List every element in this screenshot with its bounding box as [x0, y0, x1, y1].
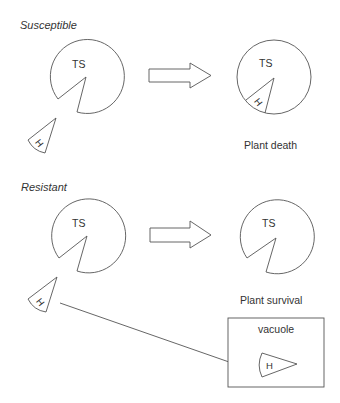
enzyme-label: TS [262, 217, 275, 229]
diagram-canvas: Susceptible TS H TS H Plant death Resist… [0, 0, 340, 403]
sequestration-arrow-icon [60, 303, 252, 370]
section-title-susceptible: Susceptible [20, 19, 77, 31]
enzyme-ts-notched: TS [52, 199, 126, 273]
vacuole-compartment: vacuole H [228, 318, 324, 387]
block-arrow-icon [150, 221, 211, 248]
outcome-label-death: Plant death [244, 139, 297, 151]
section-title-resistant: Resistant [21, 181, 68, 193]
enzyme-ts-notched: TS [50, 39, 124, 113]
section-susceptible: Susceptible TS H TS H Plant death [20, 19, 311, 153]
sequestered-inhibitor-label: H [266, 360, 273, 371]
enzyme-ts-inhibited: TS H [237, 40, 311, 114]
outcome-label-survival: Plant survival [240, 294, 302, 306]
block-arrow-icon [149, 63, 211, 88]
enzyme-ts-free: TS [240, 200, 314, 274]
inhibitor-h-free: H [28, 118, 56, 153]
enzyme-label: TS [72, 217, 85, 229]
section-resistant: Resistant TS H TS Plant survival vacuole… [21, 181, 324, 387]
enzyme-label: TS [72, 58, 85, 70]
inhibitor-h-free: H [28, 277, 57, 312]
vacuole-label: vacuole [258, 323, 294, 335]
enzyme-label: TS [259, 57, 272, 69]
